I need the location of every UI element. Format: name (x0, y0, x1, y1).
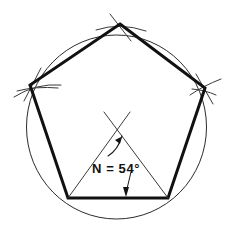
angle-arc-arrowhead (115, 137, 121, 144)
figure-canvas: Pentagon inscribed in circle with centra… (0, 0, 234, 233)
base-leader-arrowhead (123, 187, 129, 197)
construction-ticks-left (14, 68, 61, 101)
central-triangle-construction (68, 112, 168, 198)
angle-label: N = 54° (92, 161, 140, 176)
circumscribed-circle (27, 35, 207, 219)
geometry-figure: Pentagon inscribed in circle with centra… (0, 0, 234, 233)
